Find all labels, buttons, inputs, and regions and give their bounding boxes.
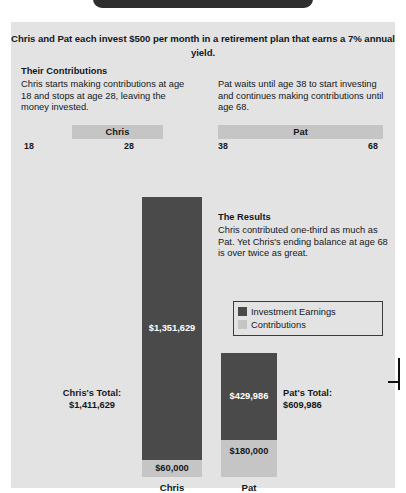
infographic-panel: Chris and Pat each invest $500 per month… <box>11 22 395 488</box>
legend-swatch-contributions-icon <box>238 320 247 329</box>
pat-bar-column: $429,986 $180,000 Pat <box>221 353 277 477</box>
legend-item-earnings: Investment Earnings <box>238 305 378 318</box>
pat-contributions-segment: $180,000 <box>221 440 277 477</box>
pat-earnings-segment: $429,986 <box>221 353 277 440</box>
legend-label-earnings: Investment Earnings <box>251 307 336 317</box>
chris-contributions-value: $60,000 <box>142 463 202 473</box>
page-top-bar-decoration <box>93 0 313 8</box>
pat-end-age-tick: 68 <box>368 141 378 151</box>
pat-timeline-label: Pat <box>218 125 383 139</box>
chart-legend: Investment Earnings Contributions <box>233 301 383 336</box>
chris-earnings-value: $1,351,629 <box>142 323 202 333</box>
pat-total-title: Pat's Total: <box>283 388 371 400</box>
chris-earnings-segment: $1,351,629 <box>142 197 202 460</box>
page-edge-rule-horizontal <box>388 381 400 383</box>
chris-start-age-tick: 18 <box>24 141 34 151</box>
page-edge-rule-vertical <box>398 358 400 390</box>
results-description: Chris contributed one-third as much as P… <box>218 225 396 260</box>
chris-total-value: $1,411,629 <box>49 400 135 412</box>
chris-contributions-segment: $60,000 <box>142 460 202 477</box>
pat-total-callout: Pat's Total: $609,986 <box>283 388 371 411</box>
legend-label-contributions: Contributions <box>251 320 306 330</box>
chris-end-age-tick: 28 <box>124 141 134 151</box>
pat-contribution-timeline-bar: Pat <box>218 125 383 139</box>
pat-contributions-value: $180,000 <box>221 446 277 456</box>
chris-contribution-timeline-bar: Chris <box>72 125 163 139</box>
chris-timeline-label: Chris <box>72 125 163 139</box>
chris-bar-column: $1,351,629 $60,000 Chris <box>142 197 202 477</box>
chris-axis-label: Chris <box>142 482 202 493</box>
pat-description: Pat waits until age 38 to start investin… <box>218 79 393 114</box>
chris-total-title: Chris's Total: <box>49 388 135 400</box>
legend-item-contributions: Contributions <box>238 318 378 331</box>
pat-total-value: $609,986 <box>283 400 371 412</box>
contributions-section-heading: Their Contributions <box>21 66 107 76</box>
chris-description: Chris starts making contributions at age… <box>21 79 196 114</box>
chris-total-callout: Chris's Total: $1,411,629 <box>49 388 135 411</box>
legend-swatch-earnings-icon <box>238 307 247 316</box>
pat-earnings-value: $429,986 <box>221 391 277 401</box>
headline: Chris and Pat each invest $500 per month… <box>11 32 395 59</box>
pat-axis-label: Pat <box>221 482 277 493</box>
pat-start-age-tick: 38 <box>218 141 228 151</box>
results-section-heading: The Results <box>218 212 271 222</box>
